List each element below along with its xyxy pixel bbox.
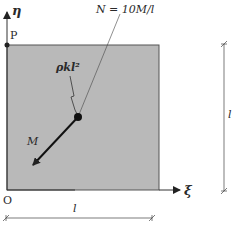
eta-axis-label: η xyxy=(12,3,21,18)
point-p xyxy=(5,43,10,48)
width-dim-label: l xyxy=(73,202,77,215)
moment-label: M xyxy=(26,135,39,148)
load-rho-label: ρkl² xyxy=(55,61,80,74)
force-n-label: N = 10M/l xyxy=(95,3,155,16)
plate xyxy=(7,45,159,190)
origin-label: O xyxy=(3,194,12,207)
point-p-label: P xyxy=(10,29,18,42)
plate-diagram: η ξ P O N = 10M/l ρkl² M l l xyxy=(0,0,233,233)
height-dim-label: l xyxy=(228,108,232,121)
xi-axis-label: ξ xyxy=(184,183,193,198)
